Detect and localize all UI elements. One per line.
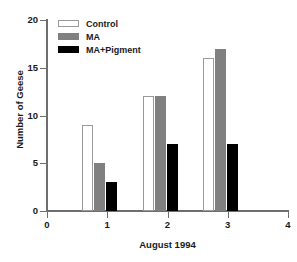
x-tick-label: 4 bbox=[278, 220, 297, 230]
x-tick-mark bbox=[47, 212, 48, 218]
x-tick-mark bbox=[288, 212, 289, 218]
bar-ma-day-3 bbox=[215, 49, 226, 211]
bar-control-day-3 bbox=[203, 58, 214, 211]
bar-ma-pigment-day-3 bbox=[227, 144, 238, 211]
bar-ma-pigment-day-2 bbox=[167, 144, 178, 211]
y-tick-mark bbox=[40, 163, 46, 164]
legend-item-label: Control bbox=[86, 19, 118, 29]
x-tick-label: 3 bbox=[218, 220, 238, 230]
legend-swatch-icon-ma bbox=[58, 33, 79, 40]
x-tick-mark bbox=[228, 212, 229, 218]
x-axis-title: August 1994 bbox=[46, 239, 289, 250]
y-tick-mark bbox=[40, 211, 46, 212]
bar-ma-pigment-day-1 bbox=[106, 182, 117, 211]
x-tick-label: 0 bbox=[37, 220, 57, 230]
bar-ma-day-2 bbox=[155, 96, 166, 211]
bar-control-day-1 bbox=[82, 125, 93, 211]
legend-item-pigment: MA+Pigment bbox=[58, 43, 141, 56]
x-tick-label: 2 bbox=[158, 220, 178, 230]
y-axis-title: Number of Geese bbox=[14, 45, 25, 175]
goose-count-bar-chart: 20151050 01234 Number of Geese August 19… bbox=[0, 0, 297, 262]
bar-ma-day-1 bbox=[94, 163, 105, 211]
legend-item-ma: MA bbox=[58, 30, 141, 43]
x-tick-mark bbox=[107, 212, 108, 218]
bar-control-day-2 bbox=[143, 96, 154, 211]
legend-item-control: Control bbox=[58, 17, 141, 30]
x-tick-label: 1 bbox=[97, 220, 117, 230]
chart-legend: ControlMAMA+Pigment bbox=[58, 17, 141, 56]
legend-item-label: MA bbox=[86, 32, 100, 42]
legend-swatch-icon-control bbox=[58, 20, 79, 27]
y-tick-label: 0 bbox=[12, 206, 38, 216]
y-axis-line bbox=[46, 19, 48, 212]
x-tick-mark bbox=[168, 212, 169, 218]
legend-swatch-icon-pigment bbox=[58, 46, 79, 53]
y-tick-label: 20 bbox=[12, 15, 38, 25]
y-tick-mark bbox=[40, 20, 46, 21]
y-tick-mark bbox=[40, 116, 46, 117]
y-tick-mark bbox=[40, 68, 46, 69]
legend-item-label: MA+Pigment bbox=[86, 45, 141, 55]
